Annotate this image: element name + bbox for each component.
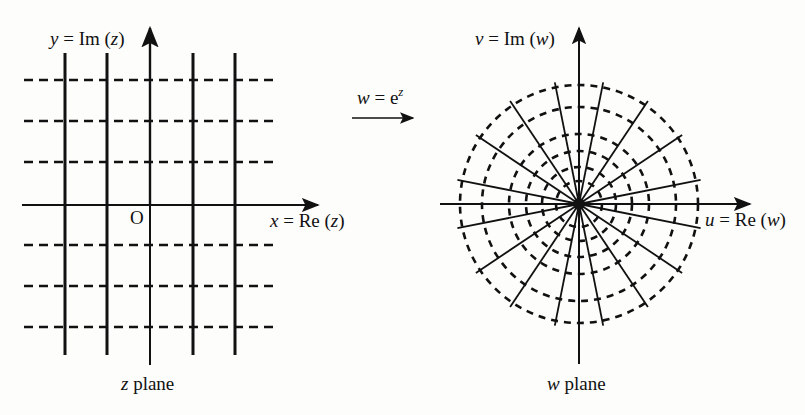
w-plane-label: w plane bbox=[547, 373, 606, 394]
mapping-label: w = ez bbox=[357, 84, 403, 108]
z-plane: y = Im (z) x = Re (z) O z plane bbox=[22, 28, 345, 394]
z-plane-label: z plane bbox=[120, 373, 174, 394]
z-plane-y-axis-label: y = Im (z) bbox=[48, 28, 125, 50]
w-plane: v = Im (w) u = Re (w) w plane bbox=[440, 28, 786, 394]
origin-label: O bbox=[130, 207, 144, 228]
w-plane-origin-dot bbox=[573, 198, 585, 210]
w-plane-v-axis-label: v = Im (w) bbox=[475, 28, 555, 50]
z-plane-x-axis-label: x = Re (z) bbox=[269, 210, 345, 232]
w-plane-u-axis-label: u = Re (w) bbox=[705, 209, 786, 231]
conformal-map-diagram: y = Im (z) x = Re (z) O z plane w = ez v… bbox=[0, 0, 805, 415]
mapping: w = ez bbox=[352, 84, 413, 118]
